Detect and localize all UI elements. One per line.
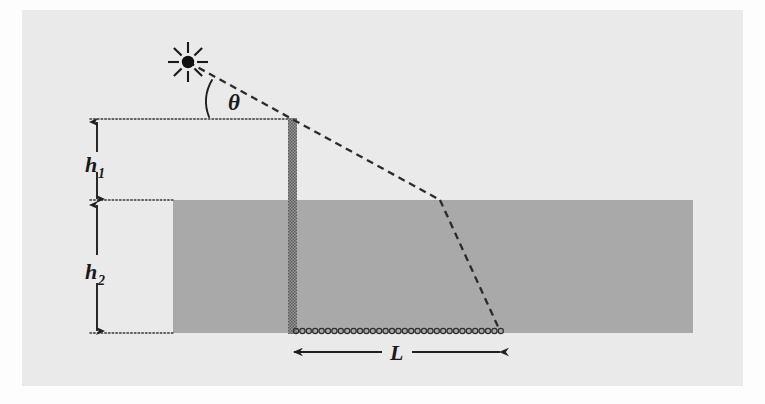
h1-dimension: h 1 [85,122,105,199]
h2-label: h [85,259,97,284]
h1-subscript: 1 [98,166,105,181]
h2-dimension: h 2 [85,205,105,331]
figure-root: θ h 1 h 2 L [0,0,765,404]
vertical-post [288,118,297,334]
h1-label: h [85,152,97,177]
L-label: L [389,340,403,365]
L-dimension: L [294,340,500,365]
water-body [173,200,693,333]
theta-label: θ [228,90,240,115]
source-dot [182,56,194,68]
incident-ray [188,62,440,200]
h2-subscript: 2 [97,273,105,288]
point-light-source [168,42,208,82]
theta-angle-arc [206,80,212,117]
refraction-diagram: θ h 1 h 2 L [0,0,765,404]
